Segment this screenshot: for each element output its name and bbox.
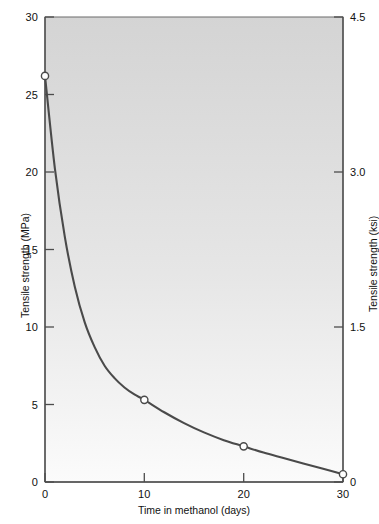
x-axis-tick-label-0: 0 (42, 489, 48, 500)
data-point-marker (339, 471, 346, 478)
y-axis-right-tick-label-3-0: 3.0 (350, 167, 366, 178)
y-axis-left-tick-label-5: 5 (14, 399, 38, 410)
y-axis-left-tick-label-0: 0 (14, 477, 38, 488)
y-axis-right-title: Tensile strength (ksi) (368, 216, 379, 312)
y-axis-right-tick-label-1-5: 1.5 (350, 322, 366, 333)
y-axis-left-tick-label-25: 25 (14, 89, 38, 100)
y-axis-left-title: Tensile strength (MPa) (20, 213, 31, 318)
data-point-marker (240, 443, 247, 450)
y-axis-left-tick-label-10: 10 (14, 322, 38, 333)
x-axis-title: Time in methanol (days) (138, 505, 250, 516)
plot-area-background (45, 17, 343, 482)
y-axis-left-tick-label-20: 20 (14, 167, 38, 178)
x-axis-tick-label-10: 10 (138, 489, 150, 500)
data-point-marker (41, 72, 48, 79)
y-axis-right-tick-label-0: 0 (350, 477, 356, 488)
x-axis-tick-label-30: 30 (337, 489, 349, 500)
y-axis-right-tick-label-4-5: 4.5 (350, 12, 366, 23)
y-axis-left-tick-label-30: 30 (14, 12, 38, 23)
data-point-marker (141, 396, 148, 403)
x-axis-tick-label-20: 20 (237, 489, 249, 500)
